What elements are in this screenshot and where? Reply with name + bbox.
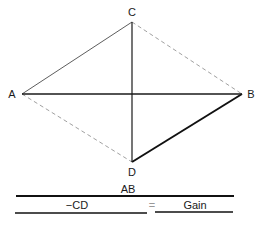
point-label-b: B: [247, 88, 254, 100]
edge-a-c: [22, 22, 132, 94]
formula-equals: =: [149, 199, 155, 211]
gain-diagram: C A B D AB −CD = Gain: [0, 0, 263, 225]
edge-c-b: [132, 22, 242, 94]
point-label-c: C: [128, 6, 136, 18]
formula-denominator: −CD: [66, 199, 88, 211]
formula-numerator: AB: [121, 183, 136, 195]
point-label-a: A: [8, 88, 16, 100]
edge-d-b: [132, 94, 242, 162]
edge-a-d: [22, 94, 132, 162]
point-label-d: D: [128, 166, 136, 178]
formula-result: Gain: [183, 199, 206, 211]
